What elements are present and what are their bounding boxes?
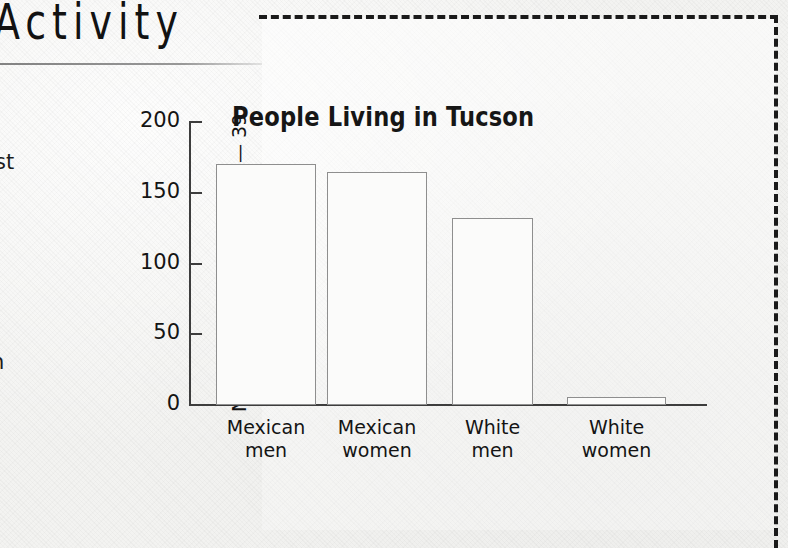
y-axis-label-50: 50 — [120, 320, 180, 344]
x-axis-label-white-women: Whitewomen — [547, 416, 687, 462]
bar-mexican-women — [327, 172, 427, 405]
y-axis-tick-200 — [191, 121, 202, 123]
bar-chart: People Living in Tucson Number of People… — [0, 0, 788, 548]
y-axis-label-150: 150 — [120, 179, 180, 203]
y-axis-tick-50 — [191, 333, 202, 335]
y-axis-tick-150 — [191, 192, 202, 194]
y-axis-label-0: 0 — [120, 391, 180, 415]
bar-white-men — [452, 218, 533, 405]
y-axis-tick-0 — [191, 404, 202, 406]
bar-mexican-men — [216, 164, 316, 405]
x-axis-label-white-men: Whitemen — [423, 416, 563, 462]
y-axis-label-200: 200 — [120, 108, 180, 132]
chart-title: People Living in Tucson — [232, 101, 534, 132]
y-axis-label-100: 100 — [120, 250, 180, 274]
bar-white-women — [567, 397, 666, 405]
y-axis-tick-100 — [191, 263, 202, 265]
